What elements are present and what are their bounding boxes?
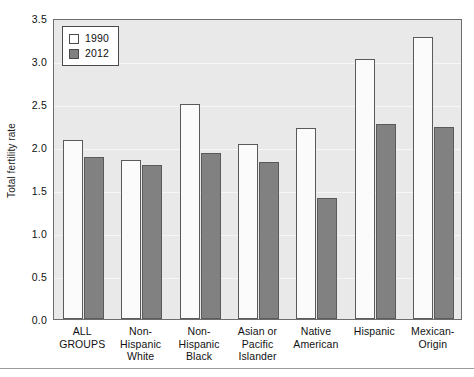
x-axis-category-label: Mexican-Origin	[404, 325, 462, 350]
y-axis-tick-label: 1.0	[32, 228, 47, 240]
chart-screenshot: Total fertility rate 0.00.51.01.52.02.53…	[0, 0, 474, 377]
legend-swatch-gray-square-icon	[69, 49, 79, 59]
x-axis-category-label-line: Islander	[228, 350, 286, 363]
y-axis-tick-label: 3.5	[32, 13, 47, 25]
x-axis-category-label-line: Hispanic	[111, 338, 169, 351]
x-axis-category-label-line: Mexican-	[404, 325, 462, 338]
x-axis-category-label-line: Pacific	[228, 338, 286, 351]
x-axis-category-label-line: Non-	[170, 325, 228, 338]
bar-2012	[434, 127, 454, 319]
legend-label-1990: 1990	[85, 33, 109, 44]
x-axis-category-label-line: Asian or	[228, 325, 286, 338]
y-axis-tick-label: 3.0	[32, 56, 47, 68]
x-axis-category-label-line: Hispanic	[170, 338, 228, 351]
legend-item-1990: 1990	[69, 31, 109, 46]
legend-swatch-white-square-icon	[69, 34, 79, 44]
legend-label-2012: 2012	[85, 48, 109, 59]
legend: 1990 2012	[62, 26, 119, 66]
x-axis-category-labels: ALLGROUPSNon-HispanicWhiteNon-HispanicBl…	[53, 325, 462, 371]
x-axis-category-label-line: GROUPS	[53, 338, 111, 351]
x-axis-category-label: Non-HispanicWhite	[111, 325, 169, 363]
y-axis-tick-label: 0.5	[32, 271, 47, 283]
x-axis-category-label-line: ALL	[53, 325, 111, 338]
x-axis-category-label: Hispanic	[345, 325, 403, 338]
x-axis-category-label: Non-HispanicBlack	[170, 325, 228, 363]
legend-item-2012: 2012	[69, 46, 109, 61]
x-axis-category-label-line: Native	[287, 325, 345, 338]
y-axis-tick-labels: 0.00.51.01.52.02.53.03.5	[18, 0, 50, 377]
y-axis-tick-label: 2.5	[32, 99, 47, 111]
x-axis-category-label-line: Non-	[111, 325, 169, 338]
x-axis-category-label-line: Black	[170, 350, 228, 363]
bottom-divider	[0, 368, 474, 369]
x-axis-category-label-line: Origin	[404, 338, 462, 351]
x-axis-category-label: NativeAmerican	[287, 325, 345, 350]
bar-1990	[413, 37, 433, 319]
x-axis-category-label-line: White	[111, 350, 169, 363]
y-axis-title-text: Total fertility rate	[6, 123, 17, 198]
x-axis-category-label: ALLGROUPS	[53, 325, 111, 350]
y-axis-tick-label: 2.0	[32, 142, 47, 154]
x-axis-category-label-line: American	[287, 338, 345, 351]
y-axis-tick-label: 1.5	[32, 185, 47, 197]
y-axis-tick-label: 0.0	[32, 314, 47, 326]
x-axis-category-label: Asian orPacificIslander	[228, 325, 286, 363]
x-axis-category-label-line: Hispanic	[345, 325, 403, 338]
